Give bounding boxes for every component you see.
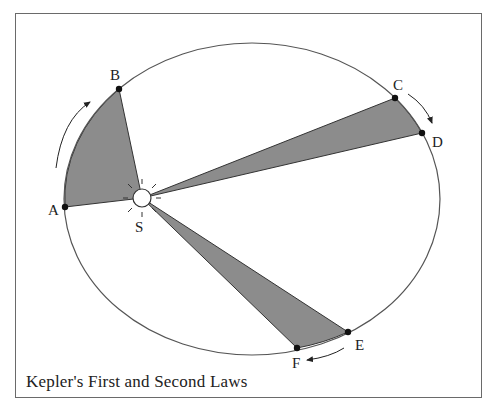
label-C: C (393, 77, 403, 93)
point-F (294, 345, 300, 351)
sector-AB (65, 89, 142, 207)
label-A: A (48, 202, 59, 218)
kepler-diagram: A B C D E F S (0, 0, 499, 414)
label-E: E (355, 337, 364, 353)
point-B (116, 86, 122, 92)
label-D: D (432, 134, 443, 150)
sector-CD (142, 98, 422, 198)
label-F: F (292, 355, 300, 371)
point-D (419, 130, 425, 136)
sector-EF (142, 198, 348, 348)
diagram-caption: Kepler's First and Second Laws (26, 372, 248, 392)
point-C (392, 95, 398, 101)
label-S: S (135, 219, 143, 235)
label-B: B (110, 67, 120, 83)
point-E (345, 329, 351, 335)
sun-icon (133, 189, 151, 207)
motion-arrow-E-to-F-icon (307, 348, 344, 360)
point-A (62, 204, 68, 210)
